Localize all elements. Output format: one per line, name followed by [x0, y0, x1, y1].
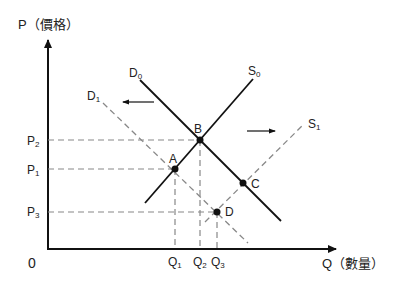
- curve-label-d0: D0: [129, 66, 143, 81]
- x-axis-label: Q（數量）: [322, 256, 384, 271]
- supply-curve-s1: [205, 126, 302, 222]
- supply-demand-diagram: P（價格） Q（數量） 0 D0 S0 D1 S1 B A C D P2 P1 …: [0, 0, 399, 287]
- curve-label-d1: D1: [87, 89, 101, 104]
- point-label-b: B: [194, 122, 202, 136]
- price-label-p3: P3: [27, 205, 40, 220]
- point-label-c: C: [251, 177, 260, 191]
- point-c: [240, 180, 247, 187]
- curve-label-s0: S0: [248, 64, 261, 79]
- y-axis-label: P（價格）: [18, 17, 79, 32]
- origin-label: 0: [28, 255, 36, 271]
- price-label-p2: P2: [27, 134, 40, 149]
- quantity-label-q3: Q3: [211, 255, 225, 270]
- point-d: [214, 209, 221, 216]
- quantity-label-q2: Q2: [193, 255, 207, 270]
- demand-curve-d0: [140, 80, 281, 221]
- point-label-d: D: [225, 205, 234, 219]
- point-a: [172, 166, 179, 173]
- point-b: [197, 137, 204, 144]
- quantity-label-q1: Q1: [168, 255, 182, 270]
- point-label-a: A: [169, 152, 177, 166]
- price-label-p1: P1: [27, 163, 40, 178]
- curve-label-s1: S1: [308, 117, 321, 132]
